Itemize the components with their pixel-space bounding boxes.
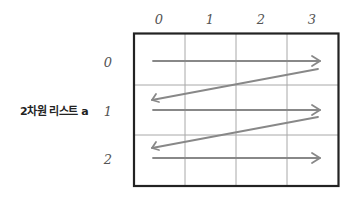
grid-diagram xyxy=(0,0,357,199)
arrow-wrap-1-to-2 xyxy=(152,117,318,150)
